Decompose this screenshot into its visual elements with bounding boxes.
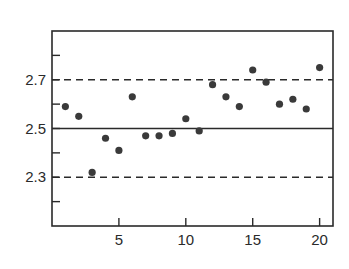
data-point <box>169 130 176 137</box>
data-point <box>75 113 82 120</box>
x-tick-label: 20 <box>311 231 328 248</box>
x-tick-label: 5 <box>115 231 123 248</box>
x-tick-label: 10 <box>177 231 194 248</box>
data-point <box>209 81 216 88</box>
data-point <box>289 96 296 103</box>
reference-lines <box>52 80 333 178</box>
data-point <box>182 115 189 122</box>
data-point <box>249 66 256 73</box>
data-point <box>196 127 203 134</box>
y-tick-label: 2.5 <box>25 120 46 137</box>
data-point <box>129 93 136 100</box>
data-point <box>142 132 149 139</box>
y-tick-label: 2.3 <box>25 168 46 185</box>
data-point <box>155 132 162 139</box>
y-tick-label: 2.7 <box>25 71 46 88</box>
data-point <box>316 64 323 71</box>
data-point <box>236 103 243 110</box>
x-axis: 5101520 <box>115 218 328 248</box>
y-axis: 2.32.52.7 <box>25 55 60 201</box>
data-points <box>62 64 323 176</box>
data-point <box>303 105 310 112</box>
data-point <box>276 101 283 108</box>
x-tick-label: 15 <box>244 231 261 248</box>
data-point <box>222 93 229 100</box>
data-point <box>102 135 109 142</box>
control-chart: 2.32.52.7 5101520 <box>0 0 349 269</box>
data-point <box>115 147 122 154</box>
data-point <box>62 103 69 110</box>
data-point <box>262 79 269 86</box>
data-point <box>89 169 96 176</box>
